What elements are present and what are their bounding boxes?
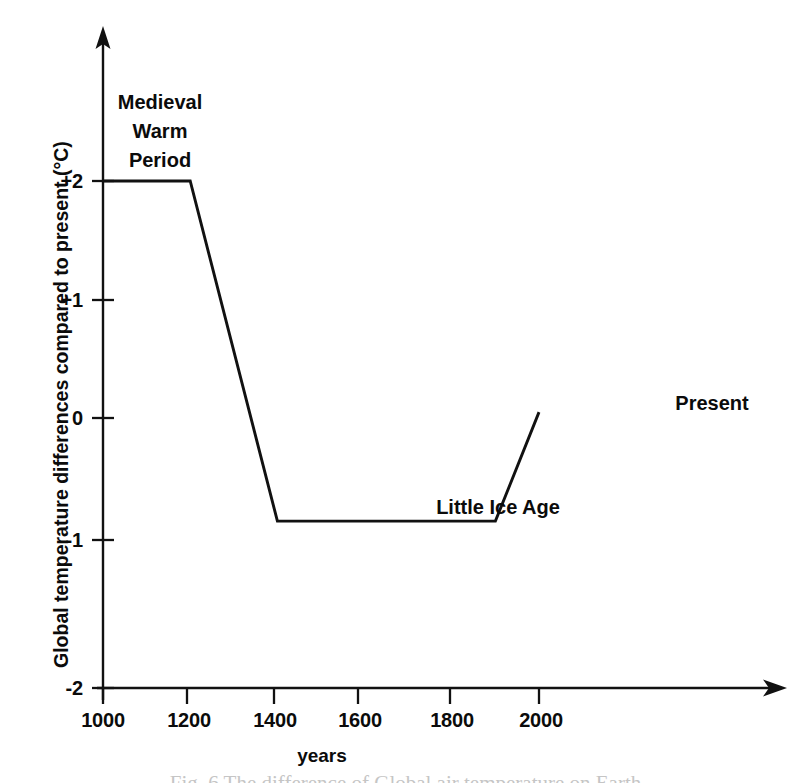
figure-caption-partial: Fig. 6 The difference of Global air temp…: [0, 772, 811, 783]
x-tick-label-2000: 2000: [519, 710, 563, 730]
x-tick-label-1000: 1000: [81, 710, 125, 730]
x-axis: [97, 680, 787, 697]
temperature-curve: [103, 181, 539, 521]
annotation-medieval-warm-period-line2: Warm: [133, 117, 188, 145]
x-axis-ticks: [103, 688, 539, 704]
x-tick-label-1600: 1600: [338, 710, 382, 730]
y-axis-title: Global temperature differences compared …: [50, 141, 73, 668]
x-tick-label-1400: 1400: [253, 710, 297, 730]
x-axis-title: years: [297, 745, 347, 767]
annotation-present: Present: [675, 389, 748, 417]
annotation-medieval-warm-period-line1: Medieval: [118, 88, 202, 116]
x-tick-label-1200: 1200: [167, 710, 211, 730]
annotation-little-ice-age: Little Ice Age: [436, 493, 560, 521]
y-axis: [96, 26, 111, 700]
y-tick-label-minus2: -2: [45, 678, 83, 698]
x-tick-label-1800: 1800: [430, 710, 474, 730]
annotation-medieval-warm-period-line3: Period: [129, 146, 191, 174]
figure-container: +2 +1 0 -1 -2 1000 1200 1400 1600 1800 2…: [0, 0, 811, 783]
